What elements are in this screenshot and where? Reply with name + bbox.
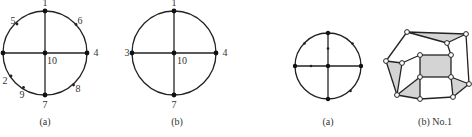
node-top [326,31,330,35]
caption-b-right: (b) No.1 [418,116,452,128]
node [449,53,454,58]
node-label-3: 3 [125,47,130,58]
node-label-7: 7 [43,99,48,110]
node-2 [10,75,13,78]
node-left [293,64,297,68]
node-label-2: 2 [3,75,8,86]
graph-a-left: 1564102987 (a) [1,0,99,128]
node-4 [85,51,90,56]
node-bottom [326,97,330,101]
node-3 [130,51,135,56]
node-label-9: 9 [20,89,25,100]
node [418,75,423,80]
node-7 [43,93,48,98]
caption-b-left: (b) [171,116,183,128]
node-8 [72,84,75,87]
node-label-10: 10 [47,55,57,66]
graph-b-right-no1: (b) No.1 [384,30,472,128]
node-label-6: 6 [78,15,83,26]
node-arc-upper-right [351,42,354,45]
figure-canvas: 1564102987 (a) 134107 (b) (a) [0,0,472,137]
shaded-face-center [420,55,451,77]
node [445,41,450,46]
node-arc-upper-left [303,42,306,45]
node [464,32,469,37]
node-5 [16,23,19,26]
node-label-4: 4 [223,47,228,58]
node-1 [43,9,48,14]
node-label-7: 7 [172,99,177,110]
node-label-1: 1 [172,0,177,8]
node-inner-vertical [327,47,330,50]
node-label-10: 10 [177,55,187,66]
node [467,82,472,87]
node-arc-lower-right [349,90,352,93]
caption-a-left: (a) [39,116,50,128]
node-label-8: 8 [76,83,81,94]
node-label-1: 1 [43,0,48,8]
node [400,61,405,66]
caption-a-right: (a) [322,116,333,128]
node-center [326,64,330,68]
node-7 [172,93,177,98]
node [395,93,400,98]
node [449,75,454,80]
node [405,30,410,35]
node [384,59,389,64]
graph-b-left: 134107 (b) [125,0,228,128]
node-right [359,64,363,68]
node-3 [1,51,6,56]
node [418,53,423,58]
graph-a-right: (a) [293,31,363,128]
node-inner-horizontal [310,65,313,68]
node [451,95,456,100]
node-4 [214,51,219,56]
node-label-5: 5 [11,15,16,26]
node-label-4: 4 [94,47,99,58]
node-1 [172,9,177,14]
node [418,97,423,102]
node-10 [172,51,177,56]
